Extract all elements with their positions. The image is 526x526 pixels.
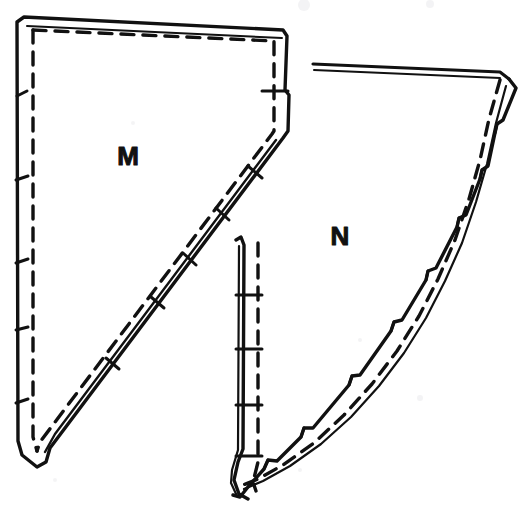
- pattern-drawing: M: [0, 0, 526, 526]
- piece-m-label: M: [117, 141, 139, 171]
- pattern-figure: M: [0, 0, 526, 526]
- piece-n-label: N: [331, 221, 350, 251]
- figure-background: [0, 0, 526, 526]
